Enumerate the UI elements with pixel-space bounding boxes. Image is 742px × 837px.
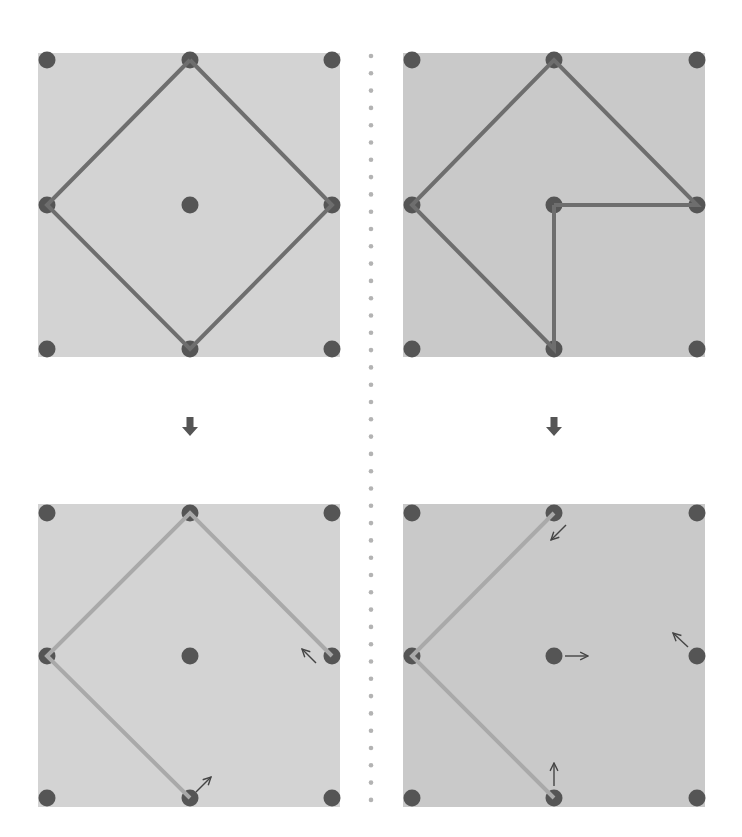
grid-point [324, 52, 341, 69]
grid-point [39, 52, 56, 69]
down-arrow-left-icon [182, 417, 198, 436]
divider-dot [369, 555, 374, 560]
divider-dot [369, 538, 374, 543]
divider-dot [369, 158, 374, 163]
divider-dot [369, 227, 374, 232]
panel-top-left [38, 52, 341, 358]
grid-point [404, 341, 421, 358]
divider-dot [369, 331, 374, 336]
divider-dot [369, 711, 374, 716]
divider-dot [369, 780, 374, 785]
grid-point [324, 341, 341, 358]
divider-dot [369, 106, 374, 111]
dotted-divider [369, 54, 374, 803]
grid-point [39, 341, 56, 358]
grid-point [546, 648, 563, 665]
divider-dot [369, 746, 374, 751]
divider-dot [369, 694, 374, 699]
divider-dot [369, 71, 374, 76]
panel-top-right [403, 52, 706, 358]
grid-point [404, 505, 421, 522]
divider-dot [369, 261, 374, 266]
divider-dot [369, 296, 374, 301]
divider-dot [369, 400, 374, 405]
grid-point [404, 52, 421, 69]
divider-dot [369, 313, 374, 318]
divider-dot [369, 140, 374, 145]
grid-point [39, 790, 56, 807]
divider-dot [369, 625, 374, 630]
grid-point [182, 197, 199, 214]
divider-dot [369, 209, 374, 214]
divider-dot [369, 365, 374, 370]
grid-point [404, 790, 421, 807]
grid-point [324, 505, 341, 522]
divider-dot [369, 521, 374, 526]
divider-dot [369, 123, 374, 128]
grid-point [689, 341, 706, 358]
divider-dot [369, 244, 374, 249]
divider-dot [369, 417, 374, 422]
divider-dot [369, 452, 374, 457]
divider-dot [369, 175, 374, 180]
divider-dot [369, 504, 374, 509]
divider-dot [369, 590, 374, 595]
divider-dot [369, 348, 374, 353]
grid-point [689, 648, 706, 665]
grid-point [324, 790, 341, 807]
lattice-transformation-diagram [0, 0, 742, 837]
divider-dot [369, 642, 374, 647]
grid-point [689, 52, 706, 69]
divider-dot [369, 434, 374, 439]
divider-dot [369, 486, 374, 491]
down-arrow-right-icon [546, 417, 562, 436]
divider-dot [369, 728, 374, 733]
divider-dot [369, 677, 374, 682]
divider-dot [369, 798, 374, 803]
grid-point [182, 648, 199, 665]
grid-point [689, 790, 706, 807]
divider-dot [369, 54, 374, 59]
divider-dot [369, 469, 374, 474]
divider-dot [369, 607, 374, 612]
divider-dot [369, 573, 374, 578]
divider-dot [369, 659, 374, 664]
divider-dot [369, 279, 374, 284]
divider-dot [369, 382, 374, 387]
panel-bottom-right [403, 504, 706, 807]
divider-dot [369, 88, 374, 93]
grid-point [689, 505, 706, 522]
panel-bottom-left [38, 504, 341, 807]
grid-point [39, 505, 56, 522]
divider-dot [369, 763, 374, 768]
divider-dot [369, 192, 374, 197]
panels [38, 52, 706, 808]
